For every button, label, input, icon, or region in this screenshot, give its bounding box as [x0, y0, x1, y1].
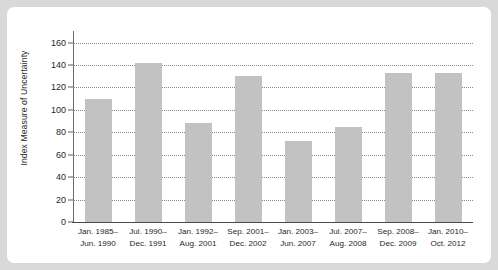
- x-tick-label: Jan. 2010–Oct. 2012: [423, 226, 473, 249]
- bar[interactable]: [385, 73, 412, 222]
- chart-panel: Index Measure of Uncertainty 02040608010…: [7, 7, 491, 263]
- x-tick-label-line: Aug. 2008: [323, 238, 373, 250]
- x-axis-labels: Jan. 1985–Jun. 1990Jul. 1990–Dec. 1991Ja…: [73, 226, 473, 249]
- bar-slot: [223, 37, 273, 222]
- figure-root: Index Measure of Uncertainty 02040608010…: [0, 0, 498, 270]
- y-tick-label: 20: [56, 195, 66, 205]
- bar[interactable]: [435, 73, 462, 222]
- x-tick-label-line: Dec. 1991: [123, 238, 173, 250]
- bar-slot: [373, 37, 423, 222]
- x-tick-label-line: Jun. 1990: [73, 238, 123, 250]
- bar-slot: [73, 37, 123, 222]
- x-tick-label-line: Jul. 2007–: [323, 226, 373, 238]
- bar-slot: [423, 37, 473, 222]
- x-tick-label: Jan. 1985–Jun. 1990: [73, 226, 123, 249]
- x-tick-label-line: Sep. 2008–: [373, 226, 423, 238]
- bar[interactable]: [285, 141, 312, 222]
- x-tick-label: Sep. 2001–Dec. 2002: [223, 226, 273, 249]
- y-tick-label: 140: [51, 60, 66, 70]
- bar-slot: [123, 37, 173, 222]
- y-tick-label: 40: [56, 172, 66, 182]
- x-tick-label: Jan. 2003–Jun. 2007: [273, 226, 323, 249]
- bar-slot: [323, 37, 373, 222]
- x-tick-label-line: Sep. 2001–: [223, 226, 273, 238]
- bar[interactable]: [185, 123, 212, 222]
- y-tick-label: 80: [56, 127, 66, 137]
- bar[interactable]: [235, 76, 262, 222]
- bars-layer: [73, 37, 473, 222]
- x-tick-label: Jan. 1992–Aug. 2001: [173, 226, 223, 249]
- y-tick-label: 60: [56, 150, 66, 160]
- x-tick-label: Jul. 2007–Aug. 2008: [323, 226, 373, 249]
- x-tick-label-line: Jan. 2010–: [423, 226, 473, 238]
- y-tick-label: 120: [51, 82, 66, 92]
- x-axis-line: [72, 222, 473, 223]
- y-tick-label: 160: [51, 38, 66, 48]
- x-tick-label-line: Oct. 2012: [423, 238, 473, 250]
- x-tick-label-line: Dec. 2002: [223, 238, 273, 250]
- x-tick-label-line: Jan. 1985–: [73, 226, 123, 238]
- x-tick-label-line: Aug. 2001: [173, 238, 223, 250]
- bar-slot: [273, 37, 323, 222]
- plot-area: 020406080100120140160: [73, 37, 473, 222]
- x-tick-label: Jul. 1990–Dec. 1991: [123, 226, 173, 249]
- bar[interactable]: [85, 99, 112, 222]
- y-tick-label: 0: [61, 217, 66, 227]
- x-tick-label-line: Jan. 2003–: [273, 226, 323, 238]
- bar-slot: [173, 37, 223, 222]
- bar[interactable]: [135, 63, 162, 222]
- x-tick-label-line: Dec. 2009: [373, 238, 423, 250]
- x-tick-label: Sep. 2008–Dec. 2009: [373, 226, 423, 249]
- x-tick-label-line: Jul. 1990–: [123, 226, 173, 238]
- y-tick-label: 100: [51, 105, 66, 115]
- y-axis-title: Index Measure of Uncertainty: [19, 28, 29, 188]
- x-tick-label-line: Jan. 1992–: [173, 226, 223, 238]
- bar[interactable]: [335, 127, 362, 222]
- x-tick-label-line: Jun. 2007: [273, 238, 323, 250]
